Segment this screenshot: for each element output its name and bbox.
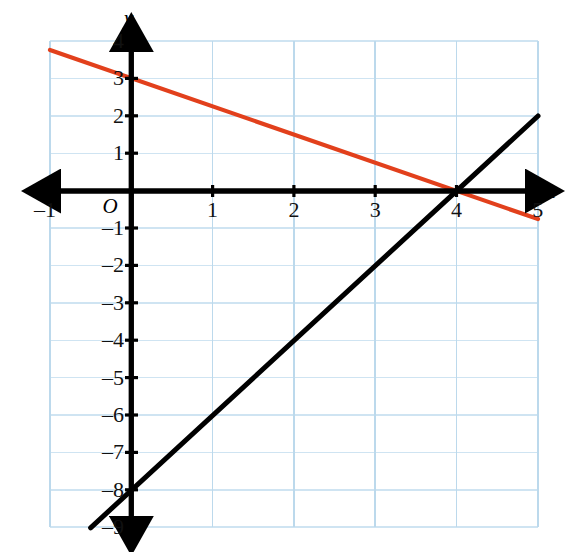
y-tick-label-neg7: –7 bbox=[102, 441, 124, 463]
x-tick-label-3: 3 bbox=[370, 199, 381, 221]
y-tick-label-3: 3 bbox=[113, 67, 124, 89]
x-tick-label-neg1: –1 bbox=[34, 199, 56, 221]
coordinate-graph-figure: y x O –1 1 2 3 4 5 4 3 2 1 –1 –2 –3 –4 –… bbox=[0, 0, 573, 552]
x-tick-label-4: 4 bbox=[451, 199, 462, 221]
y-axis-label: y bbox=[124, 8, 133, 29]
y-tick-label-2: 2 bbox=[113, 105, 124, 127]
y-tick-label-neg2: –2 bbox=[102, 254, 124, 276]
y-tick-label-4: 4 bbox=[113, 30, 124, 52]
origin-label: O bbox=[102, 196, 117, 217]
y-tick-label-neg9: –9 bbox=[102, 516, 124, 538]
x-tick-label-2: 2 bbox=[288, 199, 299, 221]
y-tick-label-neg6: –6 bbox=[102, 404, 124, 426]
y-tick-label-neg4: –4 bbox=[102, 329, 124, 351]
y-tick-label-neg5: –5 bbox=[102, 367, 124, 389]
x-tick-label-5: 5 bbox=[532, 199, 543, 221]
x-tick-label-1: 1 bbox=[207, 199, 218, 221]
y-tick-label-neg3: –3 bbox=[102, 292, 124, 314]
y-tick-label-neg8: –8 bbox=[102, 479, 124, 501]
x-axis-label: x bbox=[546, 181, 555, 202]
y-tick-label-1: 1 bbox=[113, 142, 124, 164]
plot-canvas bbox=[0, 0, 573, 552]
y-tick-label-neg1: –1 bbox=[102, 217, 124, 239]
